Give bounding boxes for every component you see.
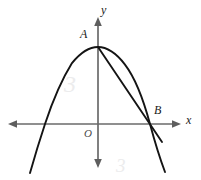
parabola-figure: 3 3 y x A B O [0, 0, 201, 180]
chord-line-AB [98, 47, 162, 142]
point-label-a: A [80, 28, 87, 40]
x-axis-left-arrowhead [8, 120, 17, 128]
point-label-b: B [154, 104, 161, 116]
origin-label: O [84, 128, 92, 139]
y-axis-top-arrowhead [94, 17, 102, 26]
x-axis-label: x [186, 114, 191, 126]
y-axis-bottom-arrowhead [94, 159, 102, 168]
x-axis-right-arrowhead [172, 120, 181, 128]
figure-canvas [0, 0, 201, 180]
y-axis-label: y [101, 4, 106, 16]
